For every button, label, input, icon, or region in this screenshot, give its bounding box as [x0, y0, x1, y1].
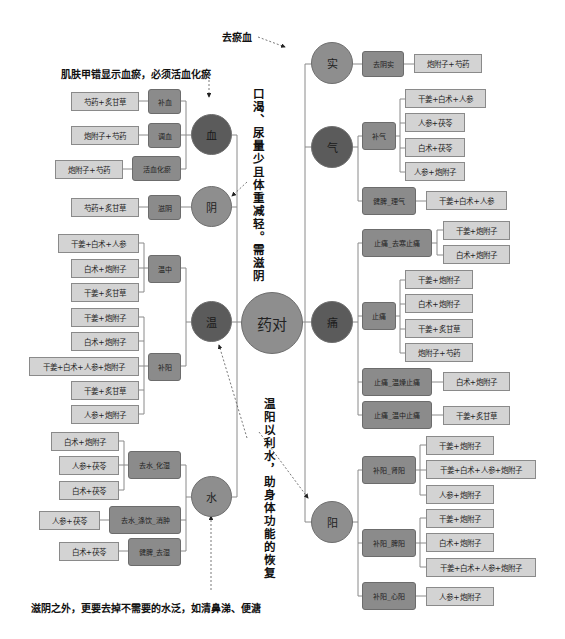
leaf[interactable]: 芍药+炙甘草	[71, 92, 139, 111]
node-blood[interactable]: 血	[191, 114, 232, 155]
annotation-remove-stasis: 去瘀血	[222, 29, 252, 44]
category-tonify-blood[interactable]: 补血	[148, 89, 181, 114]
category-tonify-heart-yang[interactable]: 补阳_心阳	[362, 582, 416, 610]
annotation-bottom: 滋阴之外，更要去掉不需要的水泛，如清鼻涕、便溏	[31, 600, 261, 615]
category-tonify-qi[interactable]: 补气	[362, 122, 396, 150]
leaf[interactable]: 干姜+炙甘草	[405, 319, 473, 338]
leaf[interactable]: 人参+炮附子	[426, 485, 494, 504]
leaf[interactable]: 干姜+白术+人参+炮附子	[29, 357, 139, 376]
leaf[interactable]: 干姜+白术+人参	[426, 191, 507, 210]
leaf[interactable]: 干姜+炮附子	[405, 270, 473, 289]
category-remove-water-damp[interactable]: 去水_化湿	[128, 451, 181, 479]
category-remove-yin-excess[interactable]: 去阴实	[362, 51, 404, 77]
category-spleen-qi[interactable]: 健脾_理气	[362, 187, 416, 215]
category-spleen-damp[interactable]: 健脾_去湿	[128, 538, 181, 566]
category-pain-cold[interactable]: 止痛_去寒止痛	[362, 229, 432, 257]
leaf[interactable]: 白术+炮附子	[71, 332, 139, 351]
category-pain[interactable]: 止痛	[362, 302, 396, 330]
leaf[interactable]: 干姜+炮附子	[426, 436, 494, 455]
annotation-warm-yang: 温阳以利水，助身体功能的恢复	[263, 398, 275, 580]
node-excess-label: 实	[327, 55, 338, 71]
leaf[interactable]: 白术+炮附子	[51, 432, 119, 451]
leaf[interactable]: 炮附子+芍药	[71, 126, 139, 145]
mind-map-canvas: 药对 血 阴 温 水 实 气 痛 阳 补血 调血 活血化瘀 滋阴 温中 补阳 去…	[0, 0, 565, 639]
node-qi[interactable]: 气	[311, 126, 353, 168]
leaf[interactable]: 人参+炮附子	[426, 587, 494, 606]
leaf[interactable]: 人参+茯苓	[59, 456, 119, 475]
leaf[interactable]: 干姜+白术+人参+炮附子	[426, 558, 536, 577]
node-water[interactable]: 水	[191, 476, 232, 517]
leaf[interactable]: 人参+炮附子	[405, 162, 465, 181]
category-pain-warm-dry[interactable]: 止痛_温燥止痛	[362, 368, 432, 396]
leaf[interactable]: 白术+茯苓	[59, 481, 119, 500]
leaf[interactable]: 白术+炮附子	[405, 294, 473, 313]
leaf[interactable]: 干姜+白术+人参	[405, 89, 486, 108]
leaf[interactable]: 人参+炮附子	[71, 405, 139, 424]
category-remove-water-edema[interactable]: 去水_涤饮_消肿	[109, 506, 181, 534]
node-yang-label: 阳	[327, 514, 338, 530]
leaf[interactable]: 干姜+炮附子	[443, 221, 510, 240]
node-excess[interactable]: 实	[311, 42, 353, 84]
node-yin-label: 阴	[206, 199, 217, 215]
node-warm[interactable]: 温	[191, 301, 232, 342]
node-yin[interactable]: 阴	[191, 186, 232, 227]
node-blood-label: 血	[206, 127, 217, 143]
leaf[interactable]: 人参+茯苓	[405, 113, 465, 132]
category-pain-warm-middle[interactable]: 止痛_温中止痛	[362, 401, 432, 429]
leaf[interactable]: 人参+茯苓	[39, 511, 100, 530]
category-tonify-spleen-yang[interactable]: 补阳_脾阳	[362, 529, 416, 557]
node-yang[interactable]: 阳	[311, 501, 353, 543]
leaf[interactable]: 炮附子+芍药	[55, 160, 123, 179]
leaf[interactable]: 白术+炮附子	[71, 259, 139, 278]
leaf[interactable]: 干姜+炮附子	[71, 308, 139, 327]
category-warm-middle[interactable]: 温中	[148, 255, 181, 283]
category-regulate-blood[interactable]: 调血	[148, 123, 181, 148]
category-activate-blood[interactable]: 活血化瘀	[132, 156, 181, 181]
leaf[interactable]: 干姜+炙甘草	[443, 406, 510, 425]
node-qi-label: 气	[327, 139, 338, 155]
leaf[interactable]: 炮附子+芍药	[414, 54, 482, 73]
leaf[interactable]: 干姜+白术+人参	[58, 234, 139, 253]
leaf[interactable]: 干姜+炙甘草	[71, 283, 139, 302]
annotation-thirst: 口渴、尿量少且体重减轻。需滋阴	[252, 88, 264, 283]
category-tonify-kidney-yang[interactable]: 补阳_肾阳	[362, 456, 416, 484]
leaf[interactable]: 白术+茯苓	[405, 138, 465, 157]
leaf[interactable]: 炮附子+芍药	[405, 343, 473, 362]
leaf[interactable]: 干姜+炙甘草	[71, 381, 139, 400]
leaf[interactable]: 芍药+炙甘草	[71, 198, 139, 217]
annotation-skin-nail: 肌肤甲错显示血瘀，必须活血化瘀	[61, 66, 211, 81]
leaf[interactable]: 白术+茯苓	[59, 542, 119, 561]
leaf[interactable]: 干姜+炮附子	[426, 509, 494, 528]
center-node-label: 药对	[257, 313, 287, 334]
category-nourish-yin[interactable]: 滋阴	[148, 195, 181, 220]
category-tonify-yang-left[interactable]: 补阳	[148, 353, 181, 381]
node-water-label: 水	[206, 489, 217, 505]
center-node-drug-pair[interactable]: 药对	[241, 292, 303, 354]
leaf[interactable]: 干姜+白术+人参+炮附子	[426, 460, 536, 479]
leaf[interactable]: 白术+炮附子	[443, 372, 510, 391]
leaf[interactable]: 白术+炮附子	[443, 245, 510, 264]
leaf[interactable]: 白术+炮附子	[426, 533, 494, 552]
node-warm-label: 温	[206, 314, 217, 330]
node-pain[interactable]: 痛	[311, 301, 353, 343]
node-pain-label: 痛	[327, 314, 338, 330]
